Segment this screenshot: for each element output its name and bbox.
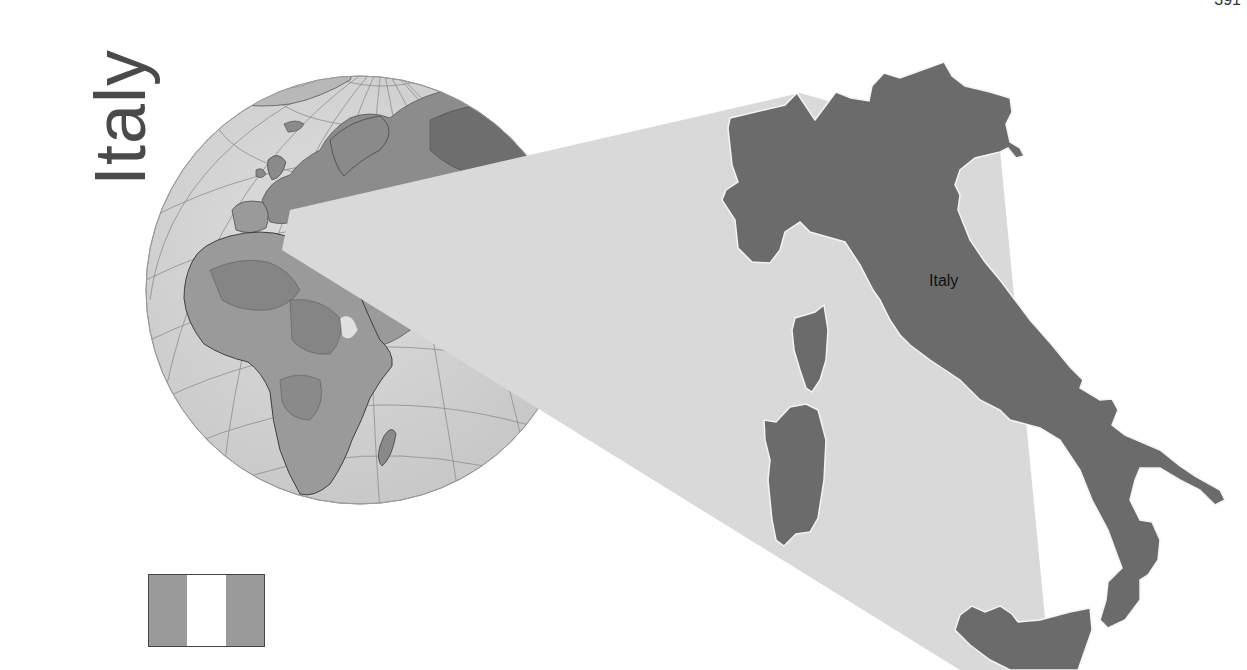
iberia xyxy=(232,201,268,233)
flag-band-left xyxy=(149,575,187,646)
flag xyxy=(148,574,265,647)
map-illustration xyxy=(0,0,1247,670)
country-label: Italy xyxy=(929,272,958,290)
flag-band-center xyxy=(187,575,225,646)
flag-band-right xyxy=(226,575,264,646)
